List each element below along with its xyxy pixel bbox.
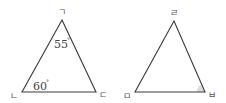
diagram-canvas: ㄱ ㄴ ㄷ 55 ° 60 ° ㄹ ㅁ ㅂ — [0, 0, 226, 103]
angle-label-top: 55 — [54, 38, 68, 51]
vertex-label-bottom-right: ㄷ — [99, 90, 107, 100]
triangle-right: ㄹ ㅁ ㅂ — [123, 8, 216, 101]
vertex-label-bottom-left: ㅁ — [123, 91, 131, 101]
vertex-label-top: ㄱ — [58, 7, 66, 17]
angle-unit-top: ° — [67, 36, 70, 43]
vertex-label-bottom-right: ㅂ — [208, 90, 216, 100]
triangle-right-shape — [135, 21, 205, 92]
angle-unit-bottom-left: ° — [46, 78, 49, 85]
triangle-left: ㄱ ㄴ ㄷ 55 ° 60 ° — [10, 7, 107, 101]
vertex-label-top: ㄹ — [170, 8, 178, 18]
vertex-label-bottom-left: ㄴ — [10, 91, 18, 101]
angle-label-bottom-left: 60 — [33, 80, 47, 93]
